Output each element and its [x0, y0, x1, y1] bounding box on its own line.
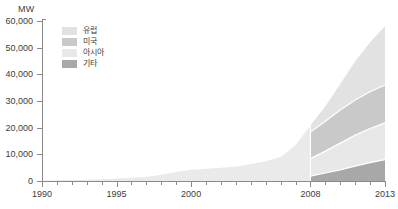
y-tick — [37, 74, 42, 75]
x-tick-major — [310, 181, 311, 187]
legend-item-europe: 유럽 — [62, 26, 104, 35]
x-tick-minor — [251, 181, 252, 185]
x-tick-minor — [57, 181, 58, 185]
y-tick-label: 40,000 — [0, 69, 33, 79]
x-tick-major — [42, 181, 43, 187]
x-tick-major — [117, 181, 118, 187]
y-tick-label: 50,000 — [0, 43, 33, 53]
y-tick-label: 30,000 — [0, 96, 33, 106]
y-axis-line — [42, 19, 43, 182]
y-tick — [37, 101, 42, 102]
x-axis-line — [41, 181, 386, 182]
y-tick — [37, 48, 42, 49]
y-tick — [37, 21, 42, 22]
x-tick-minor — [176, 181, 177, 185]
x-tick-label: 1990 — [32, 189, 52, 199]
x-tick-minor — [296, 181, 297, 185]
x-tick-minor — [370, 181, 371, 185]
legend-label-asia: 아시아 — [83, 48, 104, 57]
y-tick-label: 20,000 — [0, 123, 33, 133]
x-tick-minor — [221, 181, 222, 185]
chart-container: MW 010,00020,00030,00040,00050,00060,000… — [0, 0, 398, 209]
x-tick-minor — [87, 181, 88, 185]
x-tick-minor — [281, 181, 282, 185]
x-tick-minor — [325, 181, 326, 185]
x-tick-label: 2008 — [300, 189, 320, 199]
legend-label-europe: 유럽 — [83, 26, 97, 35]
y-axis-top-cap — [42, 19, 46, 20]
legend-swatch-asia — [62, 49, 77, 57]
legend-item-other: 기타 — [62, 59, 104, 68]
x-tick-label: 1995 — [107, 189, 127, 199]
y-tick-label: 60,000 — [0, 16, 33, 26]
x-tick-minor — [206, 181, 207, 185]
x-tick-minor — [340, 181, 341, 185]
legend-item-usa: 미국 — [62, 37, 104, 46]
area-historical — [42, 126, 310, 181]
x-tick-minor — [355, 181, 356, 185]
legend-label-usa: 미국 — [83, 37, 97, 46]
y-tick-label: 10,000 — [0, 149, 33, 159]
x-tick-major — [191, 181, 192, 187]
legend-swatch-other — [62, 60, 77, 68]
x-tick-minor — [131, 181, 132, 185]
x-tick-label: 2000 — [181, 189, 201, 199]
x-tick-minor — [146, 181, 147, 185]
x-tick-minor — [102, 181, 103, 185]
legend-swatch-usa — [62, 38, 77, 46]
x-tick-major — [385, 181, 386, 187]
x-tick-minor — [72, 181, 73, 185]
x-tick-minor — [161, 181, 162, 185]
legend-swatch-europe — [62, 27, 77, 35]
y-tick-label: 0 — [0, 176, 33, 186]
y-tick — [37, 154, 42, 155]
x-tick-label: 2013 — [375, 189, 395, 199]
legend-label-other: 기타 — [83, 59, 97, 68]
y-axis-unit-label: MW — [18, 4, 34, 14]
x-tick-minor — [236, 181, 237, 185]
x-tick-minor — [266, 181, 267, 185]
legend-item-asia: 아시아 — [62, 48, 104, 57]
chart-legend: 유럽 미국 아시아 기타 — [62, 26, 104, 70]
y-tick — [37, 128, 42, 129]
